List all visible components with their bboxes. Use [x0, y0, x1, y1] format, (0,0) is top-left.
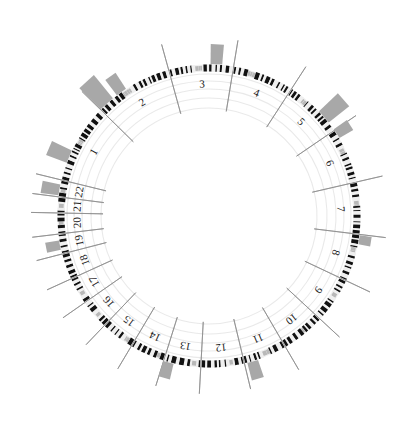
light-band — [212, 65, 216, 72]
light-band — [58, 208, 65, 211]
dark-band — [58, 218, 65, 222]
gridline-arc — [131, 111, 182, 141]
light-band — [353, 211, 360, 214]
gridline-arc — [179, 108, 229, 112]
gridline-arc — [92, 186, 95, 203]
gridline-arc — [324, 188, 327, 233]
gridline-arc — [123, 102, 179, 135]
chromosome-label-12: 12 — [215, 341, 227, 354]
gridline-arc — [172, 328, 205, 334]
gridline-arc — [306, 227, 316, 263]
gridline-rings — [67, 74, 351, 358]
gridline-arc — [117, 93, 177, 129]
chromosome-label-21: 21 — [71, 200, 84, 212]
chromosome-label-7: 7 — [335, 206, 347, 213]
gridline-arc — [297, 154, 314, 194]
light-band — [205, 360, 207, 367]
dark-band — [58, 225, 65, 228]
gridline-arc — [175, 319, 205, 324]
chromosome-label-10: 10 — [283, 311, 299, 328]
dark-band — [203, 65, 207, 72]
ideogram-band-ring — [57, 65, 360, 368]
centromere-band — [354, 201, 359, 205]
histogram-bar — [211, 44, 224, 65]
light-band — [353, 218, 360, 221]
histogram-bar — [45, 240, 61, 252]
circular-genome-plot: 12345678910111213141516171819202122 — [0, 0, 419, 435]
centromere-band — [195, 66, 199, 71]
gridline-arc — [85, 126, 120, 188]
light-band — [217, 65, 220, 72]
dark-band — [58, 214, 65, 216]
light-band — [220, 360, 224, 367]
gridline-arc — [68, 180, 72, 200]
chromosome-label-4: 4 — [252, 86, 262, 99]
gridline-arc — [294, 265, 316, 298]
chromosome-boundary-tick — [162, 44, 181, 113]
light-band — [353, 208, 360, 210]
histogram-bar — [358, 235, 371, 246]
chromosome-label-8: 8 — [330, 248, 343, 257]
gridline-arc — [226, 99, 275, 118]
chromosome-labels: 12345678910111213141516171819202122 — [70, 78, 347, 355]
centromere-band — [59, 204, 64, 208]
gridline-arc — [176, 98, 230, 103]
gridline-arc — [133, 293, 155, 310]
dark-band — [58, 211, 65, 213]
gridline-arc — [266, 124, 299, 156]
gridline-arc — [201, 330, 239, 334]
gridline-arc — [314, 190, 317, 231]
dark-band — [207, 360, 211, 367]
gridline-arc — [225, 109, 269, 126]
chromosome-label-20: 20 — [70, 216, 83, 228]
gridline-arc — [276, 108, 315, 146]
chromosome-boundary-ticks — [31, 40, 386, 393]
chromosome-label-13: 13 — [178, 339, 191, 353]
chromosome-label-15: 15 — [120, 313, 136, 330]
dark-band — [209, 65, 212, 72]
light-band — [207, 65, 209, 72]
centromere-band — [59, 221, 64, 224]
centromere-band — [192, 361, 197, 366]
gridline-arc — [119, 276, 135, 295]
chromosome-label-5: 5 — [295, 115, 308, 128]
histogram-bar — [41, 181, 61, 196]
dark-band — [202, 360, 206, 367]
gridline-arc — [315, 228, 326, 268]
chromosome-label-16: 16 — [100, 294, 117, 311]
histogram-track — [41, 44, 372, 380]
gridline-arc — [147, 316, 176, 329]
chromosome-label-3: 3 — [199, 78, 206, 90]
gridline-arc — [201, 321, 236, 324]
dark-band — [214, 360, 217, 367]
light-band — [211, 360, 214, 367]
dark-band — [353, 215, 360, 218]
gridline-arc — [104, 139, 133, 192]
chromosome-label-11: 11 — [251, 331, 265, 346]
gridline-arc — [94, 132, 126, 190]
circos-canvas: 12345678910111213141516171819202122 — [0, 0, 419, 435]
gridline-arc — [305, 148, 324, 192]
histogram-bar — [46, 141, 72, 163]
histogram-bar — [159, 361, 174, 379]
chromosome-label-22: 22 — [72, 185, 86, 198]
gridline-arc — [173, 89, 231, 94]
histogram-bar — [247, 360, 263, 381]
centromere-band — [200, 66, 202, 71]
gridline-arc — [233, 308, 265, 321]
gridline-arc — [152, 308, 178, 320]
gridline-arc — [102, 189, 105, 204]
dark-band — [353, 224, 360, 228]
gridline-arc — [262, 288, 289, 310]
chromosome-label-18: 18 — [76, 253, 91, 268]
chromosome-label-19: 19 — [72, 234, 86, 248]
light-band — [57, 216, 64, 218]
